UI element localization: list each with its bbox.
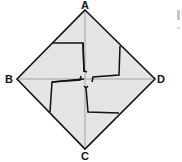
vertex-label-b: B <box>5 74 13 85</box>
vertex-label-d: D <box>157 74 165 85</box>
edge-artifact <box>177 10 180 20</box>
edge-artifact-small <box>177 27 180 29</box>
folded-square-diagram <box>0 0 182 162</box>
vertex-label-c: C <box>81 151 89 162</box>
vertex-label-a: A <box>81 0 89 11</box>
